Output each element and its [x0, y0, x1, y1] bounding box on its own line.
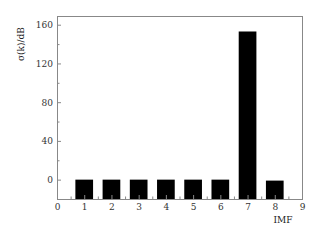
x-tick-label: 2: [109, 202, 115, 212]
x-axis-label: IMF: [273, 215, 292, 225]
x-tick-label: 1: [82, 202, 88, 212]
bar-chart: 04080120160 0123456789 IMF σ(k)/dB: [0, 0, 321, 234]
y-tick-label: 120: [36, 59, 53, 69]
bar-imf-7: [239, 31, 257, 199]
y-tick-label: 40: [42, 136, 54, 146]
x-tick-label: 8: [272, 202, 278, 212]
x-tick-label: 7: [245, 202, 251, 212]
plot-frame: [58, 17, 303, 200]
x-tick-label: 0: [55, 202, 61, 212]
y-tick-label: 0: [47, 175, 53, 185]
x-tick-label: 3: [136, 202, 142, 212]
y-axis-label: σ(k)/dB: [16, 27, 26, 61]
bars-group: [75, 31, 283, 199]
x-tick-label: 6: [218, 202, 224, 212]
x-tick-label: 4: [164, 202, 170, 212]
x-tick-label: 5: [191, 202, 197, 212]
x-tick-label: 9: [300, 202, 306, 212]
y-tick-label: 160: [36, 20, 53, 30]
bar-imf-3: [130, 180, 148, 199]
y-tick-label: 80: [42, 98, 54, 108]
